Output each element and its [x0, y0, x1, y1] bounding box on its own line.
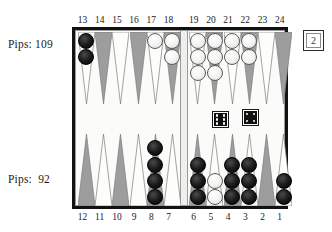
point-triangle-10[interactable]: [112, 134, 129, 206]
bottom-player-pip-count: Pips: 92: [8, 173, 50, 185]
checker-white-point-19[interactable]: [190, 65, 206, 81]
checker-black-point-6[interactable]: [190, 189, 206, 205]
board-frame: [72, 27, 288, 209]
point-triangle-9[interactable]: [130, 134, 147, 206]
checker-black-point-6[interactable]: [190, 173, 206, 189]
checker-black-point-4[interactable]: [224, 189, 240, 205]
checker-black-point-1[interactable]: [276, 173, 292, 189]
die-pip: [216, 114, 219, 117]
point-number-19: 19: [185, 14, 203, 26]
die-right[interactable]: [242, 109, 259, 126]
point-triangle-24[interactable]: [275, 32, 292, 104]
die-pip: [253, 120, 256, 123]
checker-white-point-5[interactable]: [207, 189, 223, 205]
point-number-23: 23: [254, 14, 272, 26]
point-number-5: 5: [202, 211, 220, 223]
point-number-24: 24: [271, 14, 289, 26]
point-number-1: 1: [271, 211, 289, 223]
backgammon-screenshot: Pips: 109 Pips: 92 2 1314151617181920212…: [0, 0, 332, 232]
doubling-cube[interactable]: 2: [303, 30, 324, 51]
point-number-15: 15: [108, 14, 126, 26]
checker-black-point-8[interactable]: [147, 157, 163, 173]
checker-black-point-6[interactable]: [190, 157, 206, 173]
point-number-13: 13: [74, 14, 92, 26]
point-number-6: 6: [185, 211, 203, 223]
checker-black-point-1[interactable]: [276, 189, 292, 205]
point-number-16: 16: [125, 14, 143, 26]
doubling-cube-value: 2: [306, 33, 321, 48]
top-point-number-row: 131415161718192021222324: [73, 14, 287, 26]
checker-black-point-3[interactable]: [241, 173, 257, 189]
die-left-face-6: [214, 113, 227, 126]
point-number-10: 10: [108, 211, 126, 223]
point-triangle-14[interactable]: [95, 32, 112, 104]
checker-white-point-5[interactable]: [207, 173, 223, 189]
checker-black-point-4[interactable]: [224, 157, 240, 173]
point-number-3: 3: [236, 211, 254, 223]
point-triangle-16[interactable]: [130, 32, 147, 104]
die-pip: [216, 122, 219, 125]
checker-black-point-8[interactable]: [147, 173, 163, 189]
checker-white-point-19[interactable]: [190, 49, 206, 65]
point-number-17: 17: [142, 14, 160, 26]
checker-black-point-4[interactable]: [224, 173, 240, 189]
die-pip: [246, 113, 249, 116]
die-right-face-4: [244, 111, 257, 124]
point-number-4: 4: [219, 211, 237, 223]
die-pip: [223, 122, 226, 125]
point-triangle-7[interactable]: [164, 134, 181, 206]
point-triangle-12[interactable]: [78, 134, 95, 206]
die-pip: [223, 118, 226, 121]
point-number-18: 18: [160, 14, 178, 26]
die-left[interactable]: [212, 111, 229, 128]
die-pip: [246, 120, 249, 123]
checker-black-point-3[interactable]: [241, 157, 257, 173]
point-number-20: 20: [202, 14, 220, 26]
die-pip: [253, 113, 256, 116]
center-bar[interactable]: [180, 31, 188, 205]
die-pip: [223, 114, 226, 117]
top-player-pip-count: Pips: 109: [8, 38, 53, 50]
die-pip: [216, 118, 219, 121]
point-number-12: 12: [74, 211, 92, 223]
point-triangle-11[interactable]: [95, 134, 112, 206]
point-number-11: 11: [91, 211, 109, 223]
checker-white-point-20[interactable]: [207, 49, 223, 65]
point-number-8: 8: [142, 211, 160, 223]
point-number-2: 2: [254, 211, 272, 223]
point-number-9: 9: [125, 211, 143, 223]
point-triangle-15[interactable]: [112, 32, 129, 104]
bottom-point-number-row: 121110987654321: [73, 211, 287, 223]
board-playing-surface: [75, 30, 285, 206]
checker-white-point-21[interactable]: [224, 33, 240, 49]
checker-white-point-19[interactable]: [190, 33, 206, 49]
point-triangle-23[interactable]: [258, 32, 275, 104]
point-number-7: 7: [160, 211, 178, 223]
point-number-22: 22: [236, 14, 254, 26]
checker-white-point-20[interactable]: [207, 33, 223, 49]
point-triangle-2[interactable]: [258, 134, 275, 206]
point-number-21: 21: [219, 14, 237, 26]
point-number-14: 14: [91, 14, 109, 26]
